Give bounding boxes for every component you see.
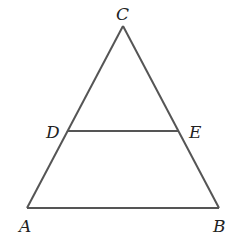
label-e: E	[188, 122, 202, 142]
label-b: B	[212, 216, 226, 236]
segment-cb	[123, 26, 219, 208]
label-a: A	[17, 216, 31, 236]
diagram-svg: C D E A B	[0, 0, 234, 238]
segment-ca	[27, 26, 123, 208]
label-d: D	[45, 122, 60, 142]
label-c: C	[116, 4, 129, 24]
triangle-diagram: C D E A B	[0, 0, 234, 238]
